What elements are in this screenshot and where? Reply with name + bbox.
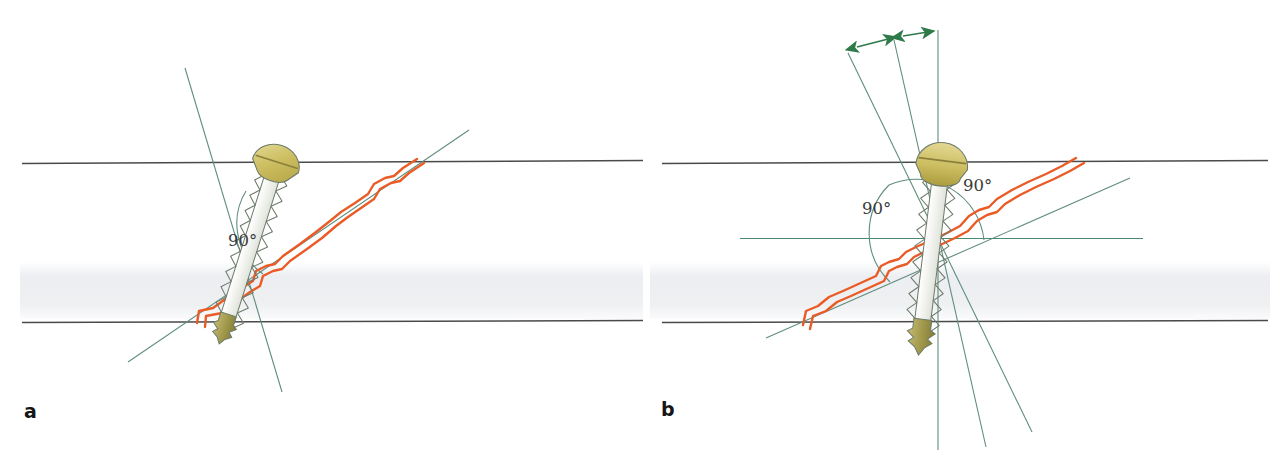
screw-axis-guide-a — [185, 68, 282, 392]
panel-letter-a: a — [24, 402, 37, 421]
angle-label-b-0: 90° — [862, 199, 891, 218]
screw-tip-b — [905, 318, 937, 357]
figure-container: 90° — [0, 0, 1286, 457]
screw-head-a — [248, 138, 305, 188]
upper-cortex-line-a — [22, 161, 643, 164]
angle-label-a-0: 90° — [228, 231, 257, 250]
medullary-band-a — [20, 262, 643, 319]
illustration-canvas: 90° — [0, 0, 1286, 457]
angle-label-b-1: 90° — [963, 176, 992, 195]
deviation-arrow-right[interactable] — [903, 31, 934, 36]
deviation-arrow-left[interactable] — [857, 37, 896, 47]
medullary-band-b — [650, 262, 1270, 319]
screw-head-b — [913, 140, 970, 189]
panel-a: 90° — [20, 68, 643, 392]
lower-cortex-line-b — [662, 321, 1268, 323]
lower-cortex-line-a — [22, 321, 643, 323]
panel-b: 90° 90° — [650, 30, 1270, 450]
panel-letter-b: b — [661, 400, 675, 419]
